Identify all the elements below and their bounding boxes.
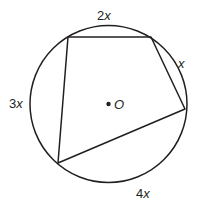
center-point bbox=[106, 102, 110, 106]
arc-label-bottom: 4x bbox=[136, 186, 150, 201]
inscribed-quadrilateral-diagram: O 2x x 4x 3x bbox=[0, 0, 201, 204]
arc-label-top: 2x bbox=[97, 8, 111, 23]
center-label: O bbox=[114, 97, 124, 112]
arc-label-right: x bbox=[177, 56, 185, 71]
arc-label-left: 3x bbox=[9, 96, 23, 111]
